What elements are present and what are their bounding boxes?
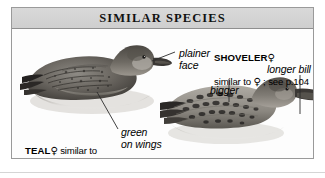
annotation-green-on-wings: green on wings bbox=[121, 127, 162, 151]
leader-line-plainer-face bbox=[151, 50, 177, 64]
figure-title: SIMILAR SPECIES bbox=[99, 11, 226, 26]
teal-species-name: TEAL bbox=[25, 145, 50, 156]
shoveler-caption-prefix: similar to bbox=[214, 76, 253, 87]
teal-caption: TEAL♀ similar to adult autumn; see p.106 bbox=[25, 133, 117, 159]
annotation-plainer-face: plainer face bbox=[179, 48, 210, 72]
female-symbol-icon: ♀ bbox=[268, 52, 275, 63]
female-symbol-icon: ♀ bbox=[50, 145, 57, 156]
figure-header-band: SIMILAR SPECIES bbox=[12, 8, 313, 29]
shoveler-caption-suffix: ; see p.104 bbox=[261, 76, 309, 87]
teal-female-duck bbox=[14, 27, 174, 127]
female-symbol-icon: ♀ bbox=[253, 76, 260, 87]
similar-species-figure-page: SIMILAR SPECIES bbox=[0, 0, 325, 178]
leader-line-green-on-wings bbox=[96, 91, 122, 131]
shoveler-species-name: SHOVELER bbox=[214, 52, 268, 63]
shoveler-caption: SHOVELER♀ similar to ♀ ; see p.104 bbox=[214, 40, 314, 88]
illustration-plate: plainer face green on wings bigger longe… bbox=[12, 29, 313, 158]
page-divider-rule bbox=[0, 172, 325, 173]
figure-frame: SIMILAR SPECIES bbox=[11, 7, 314, 159]
